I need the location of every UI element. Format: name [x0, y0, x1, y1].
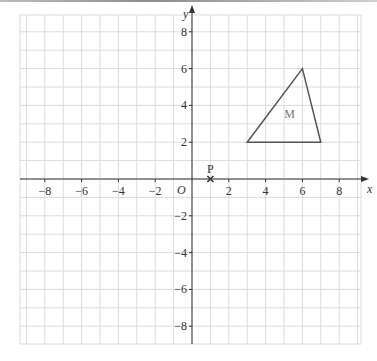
x-axis-label: x — [366, 182, 373, 196]
y-axis-arrow-icon — [189, 5, 195, 13]
y-tick-label: −2 — [174, 209, 187, 223]
y-tick-label: 8 — [181, 25, 187, 39]
x-tick-label: −4 — [112, 184, 125, 198]
y-tick-label: −4 — [174, 246, 187, 260]
y-tick-label: 2 — [181, 135, 187, 149]
x-tick-label: −2 — [149, 184, 162, 198]
x-tick-label: −6 — [75, 184, 88, 198]
y-tick-label: 6 — [181, 62, 187, 76]
point-label: P — [207, 162, 214, 176]
y-tick-label: −8 — [174, 319, 187, 333]
x-tick-label: 4 — [263, 184, 269, 198]
shape-label: M — [284, 107, 295, 121]
x-tick-label: −8 — [38, 184, 51, 198]
y-axis-label: y — [182, 7, 189, 21]
coordinate-grid: xyO−8−6−4−224688642−2−4−6−8MP — [0, 0, 377, 361]
y-tick-label: 4 — [181, 98, 187, 112]
x-tick-label: 8 — [336, 184, 342, 198]
x-tick-label: 6 — [299, 184, 305, 198]
origin-label: O — [177, 183, 186, 197]
y-tick-label: −6 — [174, 282, 187, 296]
x-tick-label: 2 — [226, 184, 232, 198]
